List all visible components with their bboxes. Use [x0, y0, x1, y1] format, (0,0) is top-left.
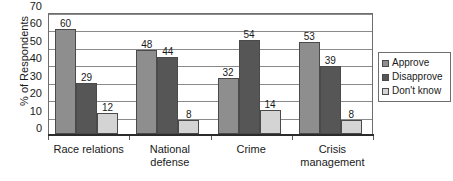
gridline	[49, 49, 372, 50]
bar-approve-1	[136, 50, 157, 134]
bar-disapprove-1	[157, 57, 178, 134]
bar-value-label: 53	[295, 32, 324, 42]
bar-value-label: 39	[316, 56, 345, 66]
chart-legend: ApproveDisapproveDon't know	[378, 52, 451, 102]
bar-value-label: 8	[174, 110, 203, 120]
y-tick-label: 20	[18, 88, 42, 99]
y-tick-label: 30	[18, 71, 42, 82]
y-tick-label: 40	[18, 53, 42, 64]
legend-label: Disapprove	[392, 72, 443, 82]
bar-disapprove-2	[239, 40, 260, 134]
x-tick-mark	[129, 136, 130, 140]
y-tick-label: 0	[18, 123, 42, 134]
bar-approve-2	[218, 78, 239, 134]
legend-item-1[interactable]: Disapprove	[382, 70, 448, 84]
legend-swatch-icon	[382, 60, 389, 67]
y-tick-label: 70	[18, 1, 42, 12]
bar-value-label: 14	[256, 100, 285, 110]
legend-label: Don't know	[392, 86, 441, 96]
x-tick-mark	[373, 136, 374, 140]
x-tick-mark	[48, 136, 49, 140]
bar-value-label: 54	[235, 30, 264, 40]
bar-value-label: 12	[93, 103, 122, 113]
legend-swatch-icon	[382, 74, 389, 81]
plot-area: 6029124844832541453398	[48, 13, 373, 135]
bar-value-label: 44	[153, 47, 182, 57]
x-category-label-line1: Crisis	[277, 143, 387, 156]
legend-item-2[interactable]: Don't know	[382, 84, 448, 98]
bar-dontknow-0	[97, 113, 118, 134]
gridline	[49, 14, 372, 15]
y-tick-label: 60	[18, 18, 42, 29]
legend-label: Approve	[392, 58, 429, 68]
bar-disapprove-3	[320, 66, 341, 134]
bar-dontknow-3	[341, 120, 362, 134]
bar-value-label: 8	[337, 110, 366, 120]
y-tick-label: 50	[18, 36, 42, 47]
x-category-label-line2: management	[277, 156, 387, 169]
x-tick-mark	[292, 136, 293, 140]
x-category-label-line2: defense	[115, 156, 225, 169]
y-tick-label: 10	[18, 106, 42, 117]
bar-dontknow-2	[260, 110, 281, 134]
bar-value-label: 60	[51, 19, 80, 29]
legend-swatch-icon	[382, 88, 389, 95]
bar-dontknow-1	[178, 120, 199, 134]
legend-item-0[interactable]: Approve	[382, 56, 448, 70]
bar-value-label: 29	[72, 73, 101, 83]
plot-inner: 6029124844832541453398	[49, 14, 372, 134]
y-axis-tick-labels: 010203040506070	[18, 7, 42, 139]
x-category-label-3: Crisismanagement	[277, 143, 387, 169]
bar-chart: % of Respondents 010203040506070 6029124…	[0, 0, 453, 181]
x-tick-mark	[211, 136, 212, 140]
